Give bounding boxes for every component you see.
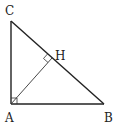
triangle-diagram: C H A B (0, 0, 117, 127)
altitude-ah (11, 58, 52, 104)
label-b: B (104, 111, 113, 125)
label-h: H (55, 49, 65, 63)
right-angle-mark-h (44, 54, 49, 63)
label-a: A (4, 111, 14, 125)
label-c: C (5, 4, 14, 18)
